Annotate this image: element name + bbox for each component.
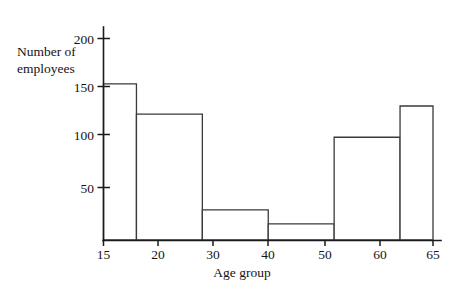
- y-tick-label-50: 50: [81, 181, 95, 196]
- y-axis-title: Number of employees: [17, 44, 76, 76]
- bar-40-50: [268, 224, 334, 240]
- x-axis-title: Age group: [213, 265, 271, 280]
- x-tick-label-30: 30: [206, 247, 220, 262]
- bar-15-20: [104, 84, 137, 240]
- bar-series: [104, 84, 434, 240]
- bar-60-65: [400, 106, 433, 240]
- bar-20-30: [136, 114, 202, 240]
- x-tick-label-20: 20: [151, 247, 165, 262]
- bar-30-40: [202, 210, 268, 240]
- x-tick-label-50: 50: [318, 247, 332, 262]
- x-tick-label-65: 65: [426, 247, 440, 262]
- bar-50-60: [334, 137, 400, 240]
- x-axis-tick-labels: 15 20 30 40 50 60 65: [97, 247, 440, 262]
- y-tick-label-100: 100: [74, 128, 95, 143]
- histogram-chart: 200 150 100 50 15 20 30 40 50 60 65 Age …: [0, 0, 465, 293]
- x-tick-label-15: 15: [97, 247, 111, 262]
- histogram-plot-area: 200 150 100 50 15 20 30 40 50 60 65 Age …: [0, 0, 465, 293]
- y-axis-title-line1: Number of: [17, 44, 76, 59]
- y-tick-label-150: 150: [74, 80, 95, 95]
- x-tick-label-40: 40: [261, 247, 275, 262]
- x-tick-label-60: 60: [373, 247, 387, 262]
- y-axis-tick-labels: 200 150 100 50: [74, 32, 95, 196]
- y-tick-label-200: 200: [74, 32, 95, 47]
- x-axis-ticks: [104, 241, 434, 247]
- y-axis-title-line2: employees: [17, 61, 75, 76]
